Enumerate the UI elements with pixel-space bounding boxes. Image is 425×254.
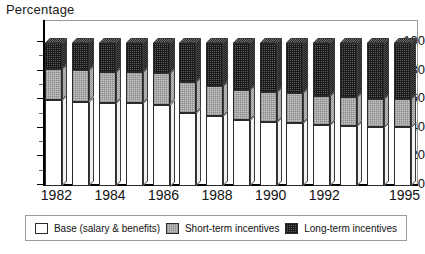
bar-side-short-1995 bbox=[411, 94, 416, 128]
bar-side-short-1990 bbox=[277, 87, 282, 122]
bar-side-short-1993 bbox=[357, 92, 362, 126]
bar-segment-base-1988 bbox=[206, 116, 223, 186]
legend-item-base[interactable]: Base (salary & benefits) bbox=[35, 223, 160, 234]
x-tick-label-1992: 1992 bbox=[309, 187, 340, 203]
x-tick-label-1995: 1995 bbox=[389, 187, 420, 203]
bar-segment-short-1987 bbox=[179, 82, 196, 113]
bar-side-long-1995 bbox=[411, 38, 416, 99]
bar-segment-long-1982 bbox=[45, 43, 62, 69]
bar-1987[interactable] bbox=[179, 43, 196, 186]
bar-side-base-1985 bbox=[143, 98, 148, 186]
bar-segment-short-1989 bbox=[233, 90, 250, 120]
x-tick-label-1984: 1984 bbox=[94, 187, 125, 203]
legend-item-long-term[interactable]: Long-term incentives bbox=[285, 223, 397, 234]
bar-1989[interactable] bbox=[233, 43, 250, 186]
bar-segment-base-1990 bbox=[260, 122, 277, 186]
bar-side-short-1994 bbox=[384, 94, 389, 128]
bar-segment-base-1985 bbox=[126, 103, 143, 186]
bar-1991[interactable] bbox=[286, 43, 303, 186]
bar-1982[interactable] bbox=[45, 43, 62, 186]
legend-item-short-term[interactable]: Short-term incentives bbox=[166, 223, 279, 234]
x-axis-tick-labels: 1982198419861988199019921995 bbox=[43, 187, 418, 207]
bar-segment-short-1994 bbox=[367, 99, 384, 128]
bar-segment-base-1986 bbox=[153, 105, 170, 187]
bar-side-base-1995 bbox=[411, 122, 416, 186]
bar-segment-short-1985 bbox=[126, 72, 143, 103]
bar-1988[interactable] bbox=[206, 43, 223, 186]
bar-1986[interactable] bbox=[153, 43, 170, 186]
bar-segment-long-1986 bbox=[153, 43, 170, 73]
bar-segment-long-1995 bbox=[394, 43, 411, 99]
bar-1995[interactable] bbox=[394, 43, 411, 186]
bar-segment-short-1991 bbox=[286, 93, 303, 123]
x-tick-label-1988: 1988 bbox=[202, 187, 233, 203]
short-term-swatch-icon bbox=[166, 223, 179, 234]
bar-1994[interactable] bbox=[367, 43, 384, 186]
bar-side-base-1994 bbox=[384, 122, 389, 186]
bar-side-long-1983 bbox=[89, 38, 94, 70]
bar-1990[interactable] bbox=[260, 43, 277, 186]
bar-1992[interactable] bbox=[313, 43, 330, 186]
bar-segment-base-1992 bbox=[313, 125, 330, 186]
bar-group bbox=[43, 20, 418, 185]
bar-side-long-1991 bbox=[303, 38, 308, 93]
bar-side-short-1985 bbox=[143, 67, 148, 103]
bar-side-short-1987 bbox=[196, 77, 201, 113]
bar-side-long-1984 bbox=[116, 38, 121, 72]
bar-segment-long-1989 bbox=[233, 43, 250, 90]
bar-segment-long-1983 bbox=[72, 43, 89, 70]
bar-segment-base-1995 bbox=[394, 127, 411, 186]
bar-side-long-1988 bbox=[223, 38, 228, 86]
bar-side-long-1985 bbox=[143, 38, 148, 72]
bar-side-long-1989 bbox=[250, 38, 255, 90]
bar-side-long-1990 bbox=[277, 38, 282, 92]
bar-segment-base-1989 bbox=[233, 120, 250, 186]
bar-side-base-1989 bbox=[250, 115, 255, 186]
bar-segment-short-1982 bbox=[45, 69, 62, 100]
x-tick-label-1986: 1986 bbox=[148, 187, 179, 203]
bar-segment-long-1992 bbox=[313, 43, 330, 96]
bar-segment-long-1987 bbox=[179, 43, 196, 82]
bar-1985[interactable] bbox=[126, 43, 143, 186]
bar-segment-long-1994 bbox=[367, 43, 384, 99]
bar-side-short-1988 bbox=[223, 81, 228, 116]
bar-side-short-1986 bbox=[170, 68, 175, 104]
plot-area bbox=[43, 20, 418, 185]
x-tick-label-1982: 1982 bbox=[41, 187, 72, 203]
bar-side-short-1982 bbox=[62, 64, 67, 100]
bar-segment-long-1990 bbox=[260, 43, 277, 92]
bar-side-base-1984 bbox=[116, 98, 121, 186]
bar-segment-long-1993 bbox=[340, 43, 357, 97]
long-term-swatch-icon bbox=[285, 223, 298, 234]
bar-segment-long-1985 bbox=[126, 43, 143, 72]
legend-label-short-term: Short-term incentives bbox=[185, 223, 279, 234]
bar-side-base-1990 bbox=[277, 117, 282, 186]
bar-side-long-1993 bbox=[357, 38, 362, 97]
bar-1983[interactable] bbox=[72, 43, 89, 186]
bar-segment-long-1988 bbox=[206, 43, 223, 86]
bar-side-long-1986 bbox=[170, 38, 175, 73]
legend-label-long-term: Long-term incentives bbox=[304, 223, 397, 234]
bar-side-base-1983 bbox=[89, 97, 94, 186]
bar-side-base-1982 bbox=[62, 95, 67, 186]
bar-segment-base-1993 bbox=[340, 126, 357, 186]
bar-side-base-1991 bbox=[303, 118, 308, 186]
bar-side-base-1988 bbox=[223, 111, 228, 186]
bar-segment-long-1991 bbox=[286, 43, 303, 93]
bar-side-long-1987 bbox=[196, 38, 201, 82]
bar-side-long-1992 bbox=[330, 38, 335, 96]
bar-side-short-1991 bbox=[303, 88, 308, 123]
bar-segment-short-1984 bbox=[99, 72, 116, 103]
bar-side-base-1992 bbox=[330, 120, 335, 186]
bar-1993[interactable] bbox=[340, 43, 357, 186]
bar-segment-base-1991 bbox=[286, 123, 303, 186]
bar-side-short-1989 bbox=[250, 85, 255, 120]
bar-segment-short-1993 bbox=[340, 97, 357, 126]
y-axis-title: Percentage bbox=[6, 2, 75, 17]
bar-segment-short-1986 bbox=[153, 73, 170, 104]
base-swatch-icon bbox=[35, 223, 48, 234]
bar-1984[interactable] bbox=[99, 43, 116, 186]
bar-segment-short-1990 bbox=[260, 92, 277, 122]
bar-segment-base-1982 bbox=[45, 100, 62, 186]
bar-segment-short-1995 bbox=[394, 99, 411, 128]
